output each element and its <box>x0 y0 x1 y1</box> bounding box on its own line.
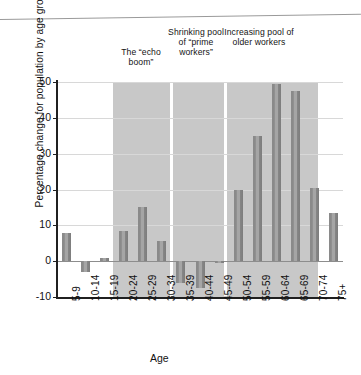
annotation-prime-workers: Shrinking pool of “prime workers” <box>166 27 226 58</box>
y-tick-mark <box>53 154 57 155</box>
bar <box>100 258 109 262</box>
annotation-older-workers: Increasing pool of older workers <box>222 27 296 47</box>
x-tick-label: 10-14 <box>90 274 101 301</box>
y-tick-mark <box>53 225 57 226</box>
y-tick-mark <box>53 118 57 119</box>
bar <box>310 188 319 261</box>
bar <box>272 84 281 261</box>
y-tick-mark <box>53 297 57 298</box>
bar <box>253 136 262 261</box>
x-tick-label: 5-9 <box>71 286 82 301</box>
x-axis-title: Age <box>150 352 169 364</box>
x-tick-label: 60-64 <box>280 274 291 301</box>
x-tick-label: 45-49 <box>223 274 234 301</box>
x-tick-label: 55-59 <box>261 274 272 301</box>
y-axis-title: Percentage change for population by age … <box>34 0 45 213</box>
bar <box>138 207 147 261</box>
top-divider-rule <box>0 14 361 20</box>
bar <box>119 231 128 261</box>
gridline <box>57 225 343 226</box>
y-tick-label: 10 <box>25 218 51 230</box>
x-tick-label: 40-44 <box>204 274 215 301</box>
gridline <box>57 154 343 155</box>
x-tick-label: 75+ <box>337 283 348 301</box>
gridline <box>57 82 343 83</box>
bar <box>157 241 166 261</box>
y-tick-label: 0 <box>25 254 51 266</box>
x-tick-label: 65-69 <box>299 274 310 301</box>
x-tick-label: 20-24 <box>128 274 139 301</box>
bar <box>62 233 71 262</box>
x-tick-label: 25-29 <box>147 274 158 301</box>
y-tick-label: -10 <box>25 290 51 302</box>
x-tick-label: 50-54 <box>242 274 253 301</box>
x-tick-label: 35-39 <box>185 274 196 301</box>
bar <box>234 190 243 262</box>
x-tick-label: 30-34 <box>166 274 177 301</box>
chart-figure: The “echo boom” Shrinking pool of “prime… <box>0 0 361 375</box>
bar <box>81 261 90 272</box>
y-tick-mark <box>53 82 57 83</box>
plot-area: -1001020304050 <box>57 82 343 297</box>
y-tick-mark <box>53 190 57 191</box>
gridline <box>57 118 343 119</box>
annotation-echo-boom: The “echo boom” <box>110 47 172 67</box>
x-tick-label: 70-74 <box>318 274 329 301</box>
bar <box>291 91 300 261</box>
x-tick-label: 15-19 <box>109 274 120 301</box>
bar <box>329 213 338 261</box>
y-tick-mark <box>53 261 57 262</box>
bar <box>215 261 224 263</box>
gridline <box>57 190 343 191</box>
x-axis-tick-labels: 5-910-1415-1920-2425-2930-3435-3940-4445… <box>57 299 343 347</box>
